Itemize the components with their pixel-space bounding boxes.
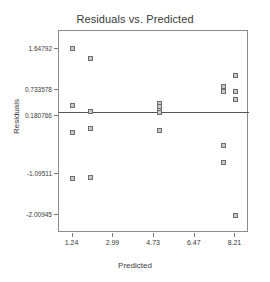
data-point [88, 175, 93, 180]
data-point [70, 176, 75, 181]
data-point [221, 160, 226, 165]
plot-area [58, 30, 248, 232]
y-axis-tick-label: -1.09511 [0, 169, 52, 176]
x-axis-tick [112, 233, 113, 237]
data-point [233, 97, 238, 102]
data-point [70, 103, 75, 108]
data-point [233, 89, 238, 94]
x-axis-tick-label: 1.24 [65, 239, 79, 246]
data-point [88, 109, 93, 114]
y-axis-tick-label: 1.64792 [0, 44, 52, 51]
data-point [70, 46, 75, 51]
x-axis-tick-label: 8.21 [228, 239, 242, 246]
data-point [233, 213, 238, 218]
x-axis-tick-label: 4.73 [146, 239, 160, 246]
data-point [221, 89, 226, 94]
y-axis-tick-label: 0.180766 [0, 111, 52, 118]
data-point [88, 126, 93, 131]
data-point [88, 56, 93, 61]
x-axis-tick [72, 233, 73, 237]
data-point [157, 110, 162, 115]
x-axis-tick-label: 6.47 [187, 239, 201, 246]
x-axis-title: Predicted [0, 261, 270, 270]
data-point [221, 143, 226, 148]
x-axis-tick-label: 2.99 [106, 239, 120, 246]
data-point [70, 130, 75, 135]
data-point [233, 73, 238, 78]
x-axis-tick [194, 233, 195, 237]
chart-screenshot: Residuals vs. Predicted Residuals 1.6479… [0, 0, 270, 282]
data-point [157, 128, 162, 133]
x-axis-tick [153, 233, 154, 237]
y-axis-tick-label: -2.00945 [0, 211, 52, 218]
page-title: Residuals vs. Predicted [0, 13, 270, 25]
y-axis-tick-label: 0.733578 [0, 86, 52, 93]
x-axis-tick [234, 233, 235, 237]
